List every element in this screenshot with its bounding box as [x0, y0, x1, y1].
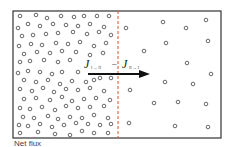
- diffusion-diagram: J I → II – J II → I: [0, 0, 230, 147]
- caption-net-flux: Net flux: [14, 139, 41, 147]
- flux-j2-symbol: J: [122, 57, 128, 71]
- flux-j1-symbol: J: [84, 57, 90, 71]
- flux-minus-sign: –: [111, 58, 117, 68]
- flux-j2-subscript: II → I: [129, 65, 140, 70]
- flux-j1-subscript: I → II: [91, 65, 102, 70]
